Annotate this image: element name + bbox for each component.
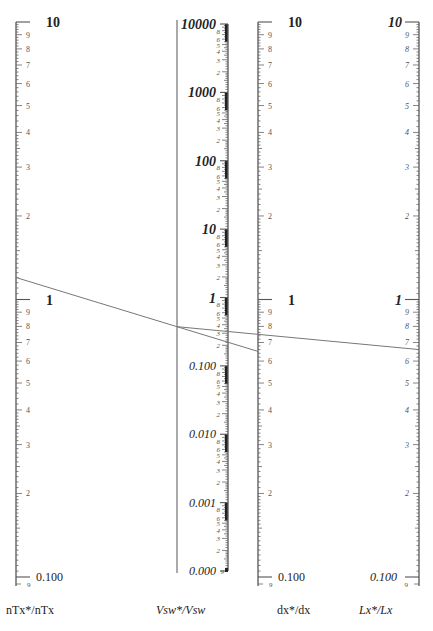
- axis-lx: 23456789234567891010.1009: [370, 15, 419, 589]
- minor-tick-label: 4: [268, 406, 272, 415]
- minor-tick-label: 3: [216, 262, 221, 270]
- minor-tick-label: 8: [405, 45, 409, 54]
- axis-title-lx: Lx*/Lx: [359, 603, 392, 618]
- decade-label: 10: [288, 15, 302, 30]
- minor-tick-label: 2: [268, 212, 272, 221]
- minor-tick-label: 8: [217, 28, 221, 36]
- minor-tick-label: 2: [217, 479, 221, 487]
- minor-tick-label: 6: [217, 36, 221, 44]
- axis-title-dx: dx*/dx: [277, 603, 310, 618]
- minor-tick-label: 7: [268, 61, 272, 70]
- minor-tick-label: 2: [217, 69, 221, 77]
- minor-tick-label: 2: [26, 212, 30, 221]
- minor-tick-label: 8: [217, 233, 221, 241]
- minor-tick-label: 2: [268, 489, 272, 498]
- minor-tick-label: 6: [217, 173, 221, 181]
- minor-tick-label: 5: [268, 379, 272, 388]
- isopleth-a: [16, 278, 258, 352]
- minor-tick-label: 4: [26, 128, 30, 137]
- minor-tick-label: 9: [405, 308, 409, 317]
- minor-tick-label: 7: [405, 338, 410, 347]
- minor-tick-label: 5: [268, 102, 272, 111]
- minor-tick-label: 2: [217, 274, 221, 282]
- minor-tick-label: 9: [269, 581, 273, 589]
- minor-tick-label: 7: [26, 338, 30, 347]
- minor-tick-label: 8: [26, 322, 30, 331]
- minor-tick-label: 2: [217, 137, 221, 145]
- minor-tick-label: 2: [26, 489, 30, 498]
- minor-tick-label: 6: [217, 378, 221, 386]
- minor-tick-label: 2: [217, 342, 221, 350]
- minor-tick-label: 3: [216, 399, 221, 407]
- decade-label: 0.100: [189, 359, 216, 373]
- minor-tick-label: 2: [217, 206, 221, 214]
- minor-tick-label: 3: [216, 125, 221, 133]
- minor-tick-label: 4: [26, 406, 30, 415]
- minor-tick-label: 8: [217, 438, 221, 446]
- decade-label: 1: [46, 293, 53, 308]
- minor-tick-label: 3: [216, 57, 221, 65]
- decade-label: 10: [202, 222, 216, 237]
- minor-tick-label: 7: [268, 338, 272, 347]
- minor-tick-label: 9: [268, 308, 272, 317]
- axis-dx: 23456789234567891010.1009: [258, 15, 305, 589]
- nomogram-chart: 23456789234567891010.1009234568234568234…: [0, 0, 433, 631]
- minor-tick-label: 7: [26, 61, 30, 70]
- minor-tick-label: 8: [217, 164, 221, 172]
- minor-tick-label: 5: [26, 102, 30, 111]
- decade-label: 0.100: [370, 570, 397, 584]
- decade-label: 1: [288, 293, 295, 308]
- minor-tick-label: 8: [217, 506, 221, 514]
- minor-tick-label: 6: [405, 357, 409, 366]
- minor-tick-label: 6: [217, 105, 221, 113]
- decade-label: 10: [388, 15, 402, 30]
- minor-tick-label: 8: [217, 96, 221, 104]
- minor-tick-label: 3: [26, 163, 30, 172]
- minor-tick-label: 3: [216, 535, 221, 543]
- minor-tick-label: 3: [268, 163, 272, 172]
- minor-tick-label: 2: [217, 411, 221, 419]
- minor-tick-label: 3: [216, 330, 221, 338]
- minor-tick-label: 9: [405, 31, 409, 40]
- axis-vsw: 2345682345682345682345682345682345682345…: [177, 17, 228, 578]
- minor-tick-label: 4: [268, 128, 272, 137]
- minor-tick-label: 6: [268, 80, 272, 89]
- minor-tick-label: 6: [217, 515, 221, 523]
- minor-tick-label: 8: [26, 45, 30, 54]
- decade-label: 0.000: [189, 564, 216, 578]
- decade-label: 10000: [181, 17, 216, 32]
- axis-ntx: 23456789234567891010.1009: [16, 15, 63, 589]
- decade-label: 1: [209, 291, 216, 306]
- minor-tick-label: 8: [217, 301, 221, 309]
- decade-label: 0.010: [189, 427, 216, 441]
- minor-tick-label: 9: [26, 308, 30, 317]
- minor-tick-label: 8: [268, 322, 272, 331]
- minor-tick-label: 6: [26, 357, 30, 366]
- minor-tick-label: 7: [405, 61, 410, 70]
- decade-label: 1: [395, 293, 402, 308]
- decade-label: 1000: [188, 85, 216, 100]
- minor-tick-label: 3: [216, 194, 221, 202]
- minor-tick-label: 9: [27, 581, 31, 589]
- minor-tick-label: 3: [268, 441, 272, 450]
- minor-tick-label: 3: [404, 441, 409, 450]
- decade-label: 100: [195, 154, 216, 169]
- minor-tick-label: 6: [268, 357, 272, 366]
- minor-tick-label: 5: [26, 379, 30, 388]
- minor-tick-label: 6: [217, 310, 221, 318]
- minor-tick-label: 5: [405, 102, 409, 111]
- decade-label: 0.100: [36, 570, 63, 584]
- svg-text:9: 9: [221, 568, 225, 576]
- minor-tick-label: 2: [217, 547, 221, 555]
- decade-label: 0.100: [278, 570, 305, 584]
- minor-tick-label: 9: [405, 581, 409, 589]
- minor-tick-label: 6: [26, 80, 30, 89]
- minor-tick-label: 3: [216, 467, 221, 475]
- minor-tick-label: 5: [405, 379, 409, 388]
- minor-tick-label: 6: [217, 446, 221, 454]
- minor-tick-label: 8: [217, 370, 221, 378]
- minor-tick-label: 9: [26, 31, 30, 40]
- minor-tick-label: 9: [268, 31, 272, 40]
- axis-title-vsw: Vsw*/Vsw: [156, 603, 205, 618]
- minor-tick-label: 2: [405, 212, 409, 221]
